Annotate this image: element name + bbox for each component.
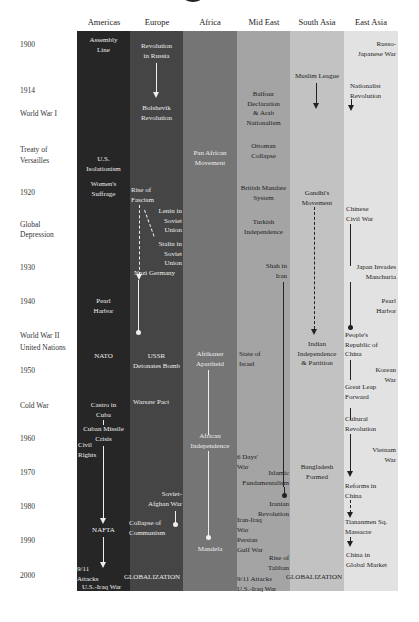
event-iran-iraq-war: Iran-IraqWar <box>237 516 262 535</box>
event-nazi-germany: Nazi Germany <box>134 269 175 279</box>
year-label: 1930 <box>20 262 35 273</box>
timeline-dot <box>136 330 141 335</box>
event-pearl-harbor-east-asia: PearlHarbor <box>344 297 396 316</box>
top-blob <box>183 0 203 2</box>
year-label: Versailles <box>20 155 49 166</box>
event-cultural-revolution: CulturalRevolution <box>345 415 376 434</box>
event-tiananmen-sq-massacre: Tiananmen Sq.Massacre <box>345 518 387 537</box>
event-mandela: Mandela <box>183 545 237 555</box>
arrow-down-icon <box>348 105 354 111</box>
column-header-africa: Africa <box>183 17 237 27</box>
year-label: 2000 <box>20 570 35 581</box>
event-african-independence: AfricanIndependence <box>183 432 237 451</box>
timeline-line <box>156 63 157 93</box>
timeline-dot <box>173 522 178 527</box>
column-africa <box>183 31 237 591</box>
timeline-line <box>138 280 139 332</box>
event-reforms-in-china: Reforms inChina <box>345 482 376 501</box>
event-gandhis-movement: Gandhi'sMovement <box>290 189 344 208</box>
event-islamic-fundamentalism: IslamicFundamentalism <box>237 469 289 488</box>
arrow-down-icon <box>153 92 159 98</box>
event-balfour-declaration: BalfourDeclaration& ArabNationalism <box>237 90 290 128</box>
year-label: Treaty of <box>20 144 47 155</box>
event-muslim-league: Muslim League <box>290 72 344 82</box>
year-label: 1970 <box>20 467 35 478</box>
dashed-timeline <box>314 207 315 329</box>
event-afrikaner-apartheid: AfrikanerApartheid <box>183 350 237 369</box>
column-header-south-asia: South Asia <box>290 17 344 27</box>
arrow-down-icon <box>347 471 353 477</box>
event-japan-invades-manchuria: Japan InvadesManchuria <box>344 263 396 282</box>
year-label: 1990 <box>20 535 35 546</box>
year-label: World War I <box>20 108 57 119</box>
event-us-isolationism: U.S.Isolationism <box>77 155 130 174</box>
arrow-down-icon <box>347 541 353 547</box>
column-header-americas: Americas <box>77 17 131 27</box>
event-great-leap-forward: Great LeapForward <box>345 383 376 402</box>
arrow-down-icon <box>100 518 106 524</box>
event-civil-rights: CivilRights <box>78 441 96 460</box>
event-us-iraq-war: U.S.-Iraq War <box>82 583 121 593</box>
year-label: Depression <box>20 229 54 240</box>
event-bolshevik-revolution: BolshevikRevolution <box>130 104 183 123</box>
event-pan-african-movement: Pan AfricanMovement <box>183 149 237 168</box>
event-peoples-republic-of-china: People'sRepublic ofChina <box>345 331 378 360</box>
year-label: World War II <box>20 330 59 341</box>
event-stalin-in-soviet-union: Stalin inSovietUnion <box>130 240 182 269</box>
event-ottoman-collapse: OttomanCollapse <box>237 142 290 161</box>
event-castro-in-cuba: Castro inCuba <box>77 401 130 420</box>
event-persian-gulf-war: PersianGulf War <box>237 536 263 555</box>
event-globalization-south-asia: GLOBALIZATION <box>286 573 342 583</box>
year-label: 1914 <box>20 85 35 96</box>
timeline-line <box>103 446 104 520</box>
event-bangladesh-formed: BangladeshFormed <box>290 463 344 482</box>
timeline-line <box>208 451 209 537</box>
timeline-line <box>283 282 284 487</box>
event-warsaw-pact: Warsaw Pact <box>133 398 169 408</box>
event-womens-suffrage: Women'sSuffrage <box>77 180 130 199</box>
year-label: 1920 <box>20 187 35 198</box>
year-label: United Nations <box>20 342 66 353</box>
event-9-11-attacks: 9/11Attacks <box>77 565 98 584</box>
event-rise-of-fascism: Rise ofFascism <box>131 186 154 205</box>
event-nafta: NAFTA <box>77 526 130 536</box>
year-label: Cold War <box>20 400 49 411</box>
event-rise-of-taliban: Rise ofTaliban <box>237 554 289 573</box>
column-header-mid-east: Mid East <box>237 17 291 27</box>
column-header-east-asia: East Asia <box>344 17 398 27</box>
timeline-dot <box>282 493 287 498</box>
arrow-down-icon <box>311 329 317 335</box>
year-label: 1900 <box>20 39 35 50</box>
year-label: 1950 <box>20 365 35 376</box>
event-soviet-afghan-war: Soviet-Afghan War <box>130 490 182 509</box>
event-nationalist-revolution: NationalistRevolution <box>350 82 381 101</box>
event-collapse-of-communism: Collapse ofCommunism <box>129 519 165 538</box>
event-state-of-israel: State ofIsrael <box>239 350 261 369</box>
arrow-down-icon <box>313 103 319 109</box>
event-turkish-independence: TurkishIndependence <box>237 218 290 237</box>
column-header-europe: Europe <box>130 17 184 27</box>
event-nato: NATO <box>77 352 130 362</box>
timeline-line <box>316 83 317 105</box>
event-ussr-detonates-bomb: USSRDetonates Bomb <box>130 352 183 371</box>
timeline-dot <box>348 325 353 330</box>
year-label: 1960 <box>20 433 35 444</box>
year-label: 1940 <box>20 296 35 307</box>
timeline-line <box>103 537 104 562</box>
event-globalization: GLOBALIZATION <box>124 573 180 583</box>
timeline-dot <box>206 535 211 540</box>
event-chinese-civil-war: ChineseCivil War <box>346 205 373 224</box>
event-shah-in-iran: Shah inIran <box>237 262 287 281</box>
timeline-line <box>350 224 351 266</box>
event-revolution-in-russia: Revolutionin Russia <box>130 42 183 61</box>
event-9-11-attacks-mideast: 9/11 AttacksU.S.-Iraq War <box>237 575 276 594</box>
event-british-mandate-system: British MandateSystem <box>237 184 290 203</box>
column-south-asia <box>290 31 344 591</box>
event-china-in-global-market: China inGlobal Market <box>346 551 387 570</box>
event-russo-japanese-war: Russo-Japanese War <box>344 40 396 59</box>
year-label: 1980 <box>20 501 35 512</box>
event-indian-independence: IndianIndependence& Partition <box>290 340 344 369</box>
event-vietnam-war: VietnamWar <box>344 446 396 465</box>
timeline-line <box>208 370 209 435</box>
arrow-down-icon <box>100 562 106 568</box>
